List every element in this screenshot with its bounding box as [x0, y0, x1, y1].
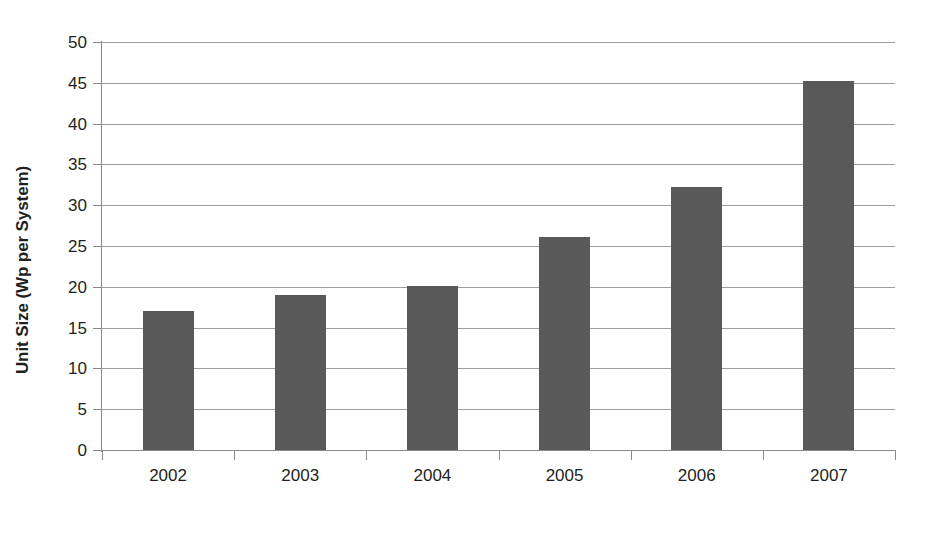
y-axis-tick-label: 25: [47, 238, 87, 255]
y-axis-tick: [93, 164, 102, 165]
gridline: [102, 246, 895, 247]
x-axis-tick: [895, 450, 896, 460]
x-axis-tick: [631, 450, 632, 460]
gridline: [102, 368, 895, 369]
y-axis-tick-label: 0: [47, 442, 87, 459]
gridline: [102, 83, 895, 84]
x-axis-tick-label-2002: 2002: [102, 466, 234, 486]
x-axis-tick-label-2007: 2007: [763, 466, 895, 486]
y-axis-title: Unit Size (Wp per System): [0, 0, 46, 540]
y-axis-tick: [93, 287, 102, 288]
x-axis-tick: [763, 450, 764, 460]
x-axis-tick: [234, 450, 235, 460]
x-axis-tick: [102, 450, 103, 460]
y-axis-tick: [93, 409, 102, 410]
y-axis-tick-label: 5: [47, 401, 87, 418]
bar-2006: [671, 187, 722, 450]
x-axis-tick: [499, 450, 500, 460]
bar-2004: [407, 286, 458, 450]
y-axis-tick-label: 40: [47, 115, 87, 132]
x-axis-tick-label-2004: 2004: [366, 466, 498, 486]
gridline: [102, 409, 895, 410]
y-axis-tick: [93, 368, 102, 369]
y-axis-tick-label: 30: [47, 197, 87, 214]
y-axis-tick: [93, 205, 102, 206]
gridline: [102, 124, 895, 125]
y-axis-tick: [93, 83, 102, 84]
y-axis-tick-label: 50: [47, 34, 87, 51]
bar-2005: [539, 237, 590, 450]
bar-2002: [143, 311, 194, 450]
y-axis-tick: [93, 42, 102, 43]
x-axis-tick-label-2006: 2006: [631, 466, 763, 486]
y-axis-tick-labels: 05101520253035404550: [42, 0, 87, 540]
x-axis-tick: [366, 450, 367, 460]
bar-2007: [803, 81, 854, 450]
plot-area: [102, 42, 895, 450]
y-axis-tick: [93, 246, 102, 247]
bar-2003: [275, 295, 326, 450]
y-axis-tick-label: 10: [47, 360, 87, 377]
gridline: [102, 287, 895, 288]
gridline: [102, 205, 895, 206]
y-axis-tick: [93, 450, 102, 451]
gridline: [102, 328, 895, 329]
y-axis-tick-label: 35: [47, 156, 87, 173]
gridline: [102, 164, 895, 165]
y-axis-tick: [93, 328, 102, 329]
y-axis-tick: [93, 124, 102, 125]
y-axis-tick-label: 15: [47, 319, 87, 336]
y-axis-tick-label: 20: [47, 278, 87, 295]
y-axis-tick-label: 45: [47, 74, 87, 91]
x-axis-tick-label-2005: 2005: [499, 466, 631, 486]
gridline: [102, 42, 895, 43]
bar-chart: Unit Size (Wp per System) 05101520253035…: [0, 0, 929, 540]
x-axis-tick-label-2003: 2003: [234, 466, 366, 486]
